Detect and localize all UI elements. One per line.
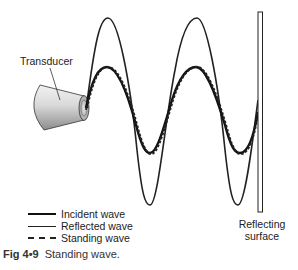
legend-label: Reflected wave — [61, 220, 133, 232]
reflecting-surface — [258, 12, 263, 212]
legend-item-standing: Standing wave — [28, 232, 133, 244]
surface-label-line2: surface — [232, 230, 292, 242]
incident-swatch-icon — [28, 213, 56, 215]
legend: Incident wave Reflected wave Standing wa… — [28, 208, 133, 244]
transducer-label: Transducer — [20, 55, 73, 67]
legend-label: Standing wave — [61, 232, 130, 244]
caption-text: Standing wave. — [45, 248, 120, 260]
standing-swatch-icon — [28, 237, 56, 239]
incident-wave-line — [86, 67, 258, 153]
reflecting-surface-label: Reflecting surface — [232, 218, 292, 242]
reflected-wave-line — [86, 18, 258, 205]
reflected-swatch-icon — [28, 226, 56, 227]
transducer-icon — [34, 85, 89, 130]
surface-label-line1: Reflecting — [232, 218, 292, 230]
figure-caption: Fig 4•9Standing wave. — [3, 248, 120, 260]
legend-item-reflected: Reflected wave — [28, 220, 133, 232]
legend-item-incident: Incident wave — [28, 208, 133, 220]
figure-number: Fig 4•9 — [3, 248, 39, 260]
legend-label: Incident wave — [61, 208, 125, 220]
